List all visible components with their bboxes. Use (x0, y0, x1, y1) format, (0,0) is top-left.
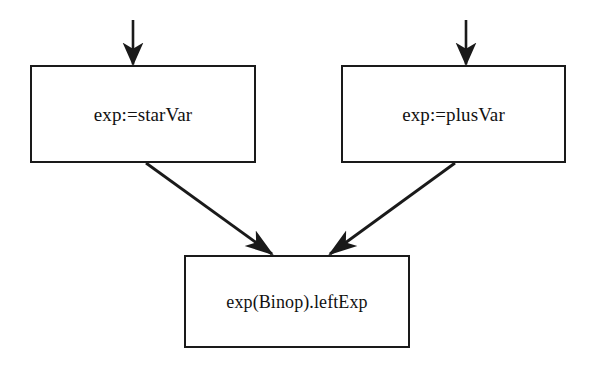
edge-plus-var-to-left-exp (330, 163, 455, 254)
node-left-exp[interactable]: exp(Binop).leftExp (184, 255, 410, 348)
node-plus-var[interactable]: exp:=plusVar (341, 65, 566, 163)
edge-star-var-to-left-exp (146, 163, 272, 254)
node-left-exp-label: exp(Binop).leftExp (226, 293, 367, 311)
node-plus-var-label: exp:=plusVar (402, 105, 505, 124)
diagram-canvas: exp:=starVar exp:=plusVar exp(Binop).lef… (0, 0, 591, 370)
node-star-var[interactable]: exp:=starVar (30, 65, 256, 163)
node-star-var-label: exp:=starVar (94, 105, 192, 124)
